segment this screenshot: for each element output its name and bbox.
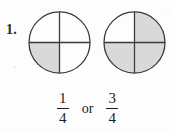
scan-speckle: [167, 10, 169, 12]
question-number: 1.: [6, 22, 17, 38]
fraction-denominator: 4: [57, 110, 69, 126]
fraction-circle-one-quarter: [28, 11, 91, 74]
worksheet-page: 1. 1: [0, 0, 175, 131]
fraction-three-quarters: 3 4: [106, 91, 118, 126]
fraction-bar: [106, 108, 118, 109]
scan-speckle: [14, 66, 16, 68]
conjunction-label: or: [82, 101, 94, 117]
fraction-denominator: 4: [107, 110, 119, 126]
fraction-circle-three-quarters: [103, 11, 166, 74]
fraction-bar: [57, 108, 69, 109]
fraction-numerator: 1: [57, 91, 69, 107]
answer-expression: 1 4 or 3 4: [0, 88, 175, 128]
fraction-one-quarter: 1 4: [57, 91, 69, 126]
fraction-numerator: 3: [107, 91, 119, 107]
